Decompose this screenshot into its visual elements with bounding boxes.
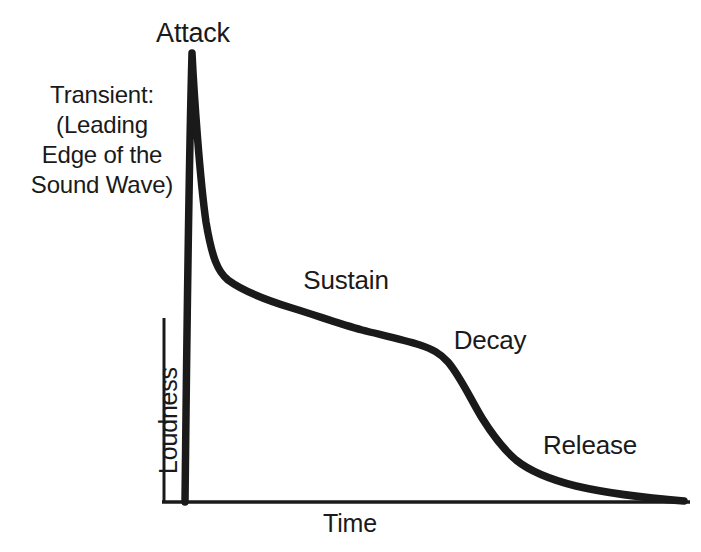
transient-label-line-2: (Leading bbox=[12, 110, 192, 140]
transient-label: Transient: (Leading Edge of the Sound Wa… bbox=[12, 80, 192, 200]
y-axis-label: Loudness bbox=[156, 336, 181, 506]
sustain-label: Sustain bbox=[256, 267, 436, 293]
transient-label-line-3: Edge of the bbox=[12, 140, 192, 170]
decay-label: Decay bbox=[400, 327, 580, 353]
release-label: Release bbox=[500, 432, 680, 458]
adsr-envelope-diagram: Attack Transient: (Leading Edge of the S… bbox=[0, 0, 701, 552]
attack-label: Attack bbox=[0, 20, 386, 47]
x-axis-label: Time bbox=[260, 511, 440, 536]
transient-label-line-1: Transient: bbox=[12, 80, 192, 110]
transient-label-line-4: Sound Wave) bbox=[12, 170, 192, 200]
